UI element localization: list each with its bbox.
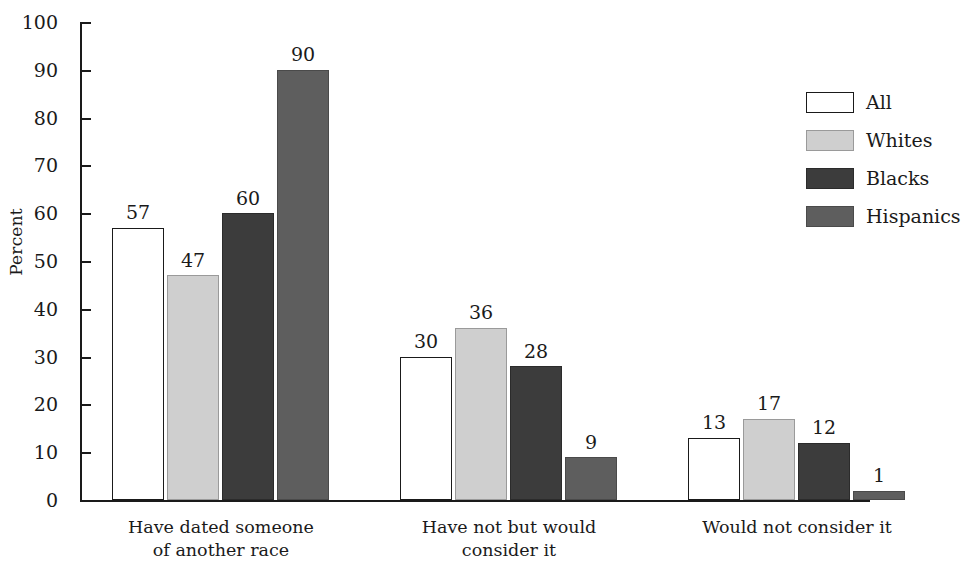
- bar-group2-hispanics: [565, 457, 617, 500]
- bar-value-group3-blacks: 12: [798, 418, 850, 437]
- legend-swatch-hispanics-icon: [806, 206, 854, 227]
- bar-value-group2-blacks: 28: [510, 342, 562, 361]
- y-tick-40: [82, 309, 91, 311]
- bar-group2-whites: [455, 328, 507, 500]
- y-tick-label-80: 80: [10, 109, 58, 128]
- y-tick-30: [82, 357, 91, 359]
- bar-value-group2-hispanics: 9: [565, 433, 617, 452]
- y-tick-label-100: 100: [10, 13, 58, 32]
- legend-label-whites: Whites: [866, 126, 932, 154]
- bar-group2-all: [400, 357, 452, 500]
- y-tick-50: [82, 261, 91, 263]
- bar-value-group2-all: 30: [400, 332, 452, 351]
- legend-swatch-whites-icon: [806, 130, 854, 151]
- y-tick-label-30: 30: [10, 348, 58, 367]
- y-tick-label-50: 50: [10, 252, 58, 271]
- y-tick-90: [82, 70, 91, 72]
- y-tick-label-20: 20: [10, 395, 58, 414]
- y-tick-60: [82, 213, 91, 215]
- bar-group1-blacks: [222, 213, 274, 500]
- legend-swatch-all-icon: [806, 92, 854, 113]
- y-tick-100: [82, 22, 91, 24]
- y-tick-20: [82, 404, 91, 406]
- y-tick-80: [82, 118, 91, 120]
- y-tick-label-10: 10: [10, 443, 58, 462]
- legend-swatch-blacks-icon: [806, 168, 854, 189]
- bar-group3-blacks: [798, 443, 850, 500]
- bar-value-group1-whites: 47: [167, 251, 219, 270]
- bar-value-group1-all: 57: [112, 203, 164, 222]
- bar-group1-all: [112, 228, 164, 501]
- y-tick-label-70: 70: [10, 156, 58, 175]
- y-tick-label-40: 40: [10, 300, 58, 319]
- bar-group1-hispanics: [277, 70, 329, 500]
- bar-value-group3-all: 13: [688, 413, 740, 432]
- legend-label-all: All: [866, 88, 892, 116]
- legend-label-blacks: Blacks: [866, 164, 929, 192]
- bar-value-group3-hispanics: 1: [853, 466, 905, 485]
- bar-value-group1-hispanics: 90: [277, 45, 329, 64]
- y-tick-label-0: 0: [10, 491, 58, 510]
- group-label-1-line2: of another race: [90, 539, 352, 562]
- bar-value-group3-whites: 17: [743, 394, 795, 413]
- group-label-1-line1: Have dated someone: [90, 516, 352, 539]
- group-label-2-line2: consider it: [378, 539, 640, 562]
- y-axis-title: Percent: [6, 182, 26, 302]
- y-tick-label-60: 60: [10, 204, 58, 223]
- y-tick-10: [82, 452, 91, 454]
- group-label-3: Would not consider it: [666, 516, 928, 539]
- group-label-3-line1: Would not consider it: [666, 516, 928, 539]
- bar-group2-blacks: [510, 366, 562, 500]
- legend-label-hispanics: Hispanics: [866, 202, 961, 230]
- bar-group3-whites: [743, 419, 795, 500]
- bar-group3-hispanics: [853, 491, 905, 500]
- bar-value-group1-blacks: 60: [222, 189, 274, 208]
- group-label-1: Have dated someone of another race: [90, 516, 352, 562]
- bar-group3-all: [688, 438, 740, 500]
- group-label-2-line1: Have not but would: [378, 516, 640, 539]
- y-tick-label-90: 90: [10, 61, 58, 80]
- bar-value-group2-whites: 36: [455, 303, 507, 322]
- bar-group1-whites: [167, 275, 219, 500]
- y-tick-70: [82, 165, 91, 167]
- group-label-2: Have not but would consider it: [378, 516, 640, 562]
- x-axis-line: [80, 500, 870, 502]
